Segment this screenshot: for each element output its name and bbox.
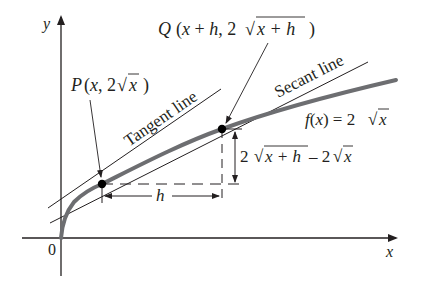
x-axis-label: x (385, 243, 393, 260)
p-coords: (x, 2 (84, 75, 116, 96)
q-radicand: x + h (256, 19, 295, 39)
function-radicand: x (378, 110, 387, 129)
point-p (98, 180, 106, 188)
vertical-dimension: 2 √ x + h – 2 √ x (235, 132, 353, 182)
function-label: f(x) = 2 √ x (305, 109, 389, 129)
p-radicand: x (128, 75, 137, 95)
vd-coef1: 2 (240, 147, 249, 166)
vd-minus: – 2 (308, 147, 330, 166)
point-q (218, 125, 226, 133)
p-root-sign: √ (117, 75, 127, 95)
q-coords: (x + h, 2 (176, 19, 236, 40)
p-name: P (70, 75, 82, 95)
vd-root1-sign: √ (254, 147, 264, 166)
vd-root2-sign: √ (333, 147, 343, 166)
h-label: h (156, 186, 165, 205)
point-p-label: P (x, 2 √ x ) (70, 74, 149, 96)
vd-radicand2: x (343, 147, 352, 166)
q-root-sign: √ (245, 19, 255, 39)
point-q-label: Q (x + h, 2 √ x + h ) (158, 17, 315, 40)
secant-tangent-figure: x y 0 h 2 √ x + h – 2 √ x (0, 0, 430, 292)
vertical-dimension-label: 2 √ x + h – 2 √ x (240, 146, 353, 166)
y-axis-label: y (41, 15, 51, 33)
vd-radicand1: x + h (264, 147, 301, 166)
origin-label: 0 (48, 241, 56, 258)
h-dimension: h (105, 186, 219, 205)
q-name: Q (158, 19, 171, 39)
q-close: ) (309, 19, 315, 40)
tangent-line (48, 89, 221, 208)
q-pointer-arrow (226, 43, 268, 123)
function-lhs: f(x) = 2 (305, 110, 355, 129)
p-pointer-arrow (90, 100, 101, 177)
p-close: ) (143, 75, 149, 96)
function-root-sign: √ (368, 110, 378, 129)
